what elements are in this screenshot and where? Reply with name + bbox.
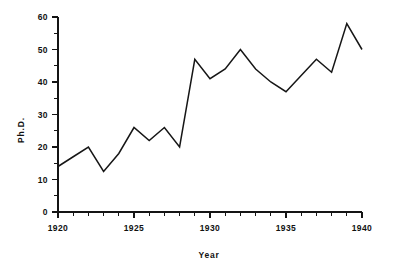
y-tick-label-20: 20 [38,142,48,152]
y-tick-label-50: 50 [38,45,48,55]
y-tick-label-10: 10 [38,175,48,185]
y-tick-label-30: 30 [38,110,48,120]
x-tick-label-1920: 1920 [48,223,69,233]
y-tick-label-0: 0 [43,207,48,217]
line-chart-canvas: 0102030405060 Ph.D. 19201925193019351940… [0,0,406,278]
x-tick-label-1940: 1940 [352,223,373,233]
y-tick-label-40: 40 [38,77,48,87]
x-tick-label-1925: 1925 [124,223,145,233]
y-tick-label-60: 60 [38,12,48,22]
x-tick-label-1930: 1930 [200,223,221,233]
chart-figure: 0102030405060 Ph.D. 19201925193019351940… [0,0,406,278]
y-axis-title: Ph.D. [16,117,26,143]
chart-background [0,0,406,278]
x-tick-label-1935: 1935 [276,223,297,233]
x-axis-title: Year [198,250,219,260]
